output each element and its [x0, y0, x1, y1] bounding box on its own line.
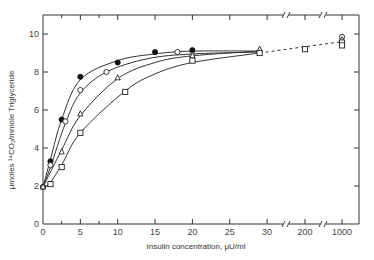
x-tick-label: 5	[78, 227, 83, 237]
marker-open-circle	[104, 69, 109, 74]
x-tick-label: 0	[40, 227, 45, 237]
x-tick-label: 200	[297, 227, 312, 237]
marker-open-triangle	[59, 149, 64, 154]
x-tick-label: 15	[150, 227, 160, 237]
marker-open-circle	[63, 119, 68, 124]
marker-open-square	[78, 130, 83, 135]
x-tick-label: 1000	[332, 227, 352, 237]
y-tick-label: 8	[34, 67, 39, 77]
y-tick-label: 10	[29, 29, 39, 39]
marker-filled-circle	[115, 60, 120, 65]
y-tick-label: 6	[34, 105, 39, 115]
x-tick-label: 25	[225, 227, 235, 237]
curve-open-triangle	[43, 51, 260, 187]
marker-open-square	[48, 182, 53, 187]
x-tick-label: 30	[262, 227, 272, 237]
marker-open-circle	[78, 87, 83, 92]
plot-frame	[43, 12, 359, 227]
marker-open-square	[257, 50, 262, 55]
marker-filled-circle	[152, 49, 157, 54]
y-tick-label: 2	[34, 181, 39, 191]
marker-open-circle	[48, 163, 53, 168]
marker-open-square	[339, 43, 344, 48]
x-tick-label: 10	[113, 227, 123, 237]
marker-open-square	[59, 164, 64, 169]
y-tick-label: 4	[34, 143, 39, 153]
y-axis-title: μmoles ¹⁴CO₂/mmole Triglyceride	[7, 70, 16, 189]
curve-open-circle	[43, 52, 260, 187]
marker-filled-circle	[78, 74, 83, 79]
x-axis-title: Insulin concentration, μU/ml	[147, 242, 246, 251]
marker-open-square	[302, 47, 307, 52]
chart: 02468100510152025302001000 Insulin conce…	[0, 0, 374, 260]
curve-filled-circle	[43, 51, 260, 187]
y-tick-label: 0	[34, 219, 39, 229]
dashed-extension	[260, 42, 342, 53]
marker-open-circle	[175, 49, 180, 54]
marker-open-square	[190, 58, 195, 63]
marker-open-square	[123, 89, 128, 94]
series-markers	[40, 34, 344, 189]
x-tick-label: 20	[187, 227, 197, 237]
